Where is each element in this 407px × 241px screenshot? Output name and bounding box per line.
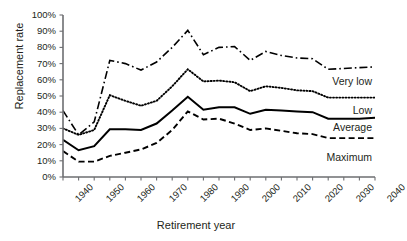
x-tick-label: 2020 <box>323 182 345 204</box>
x-tick-label: 1940 <box>73 182 95 204</box>
x-axis-title: Retirement year <box>0 219 392 231</box>
x-tick-label: 1950 <box>104 182 126 204</box>
x-tick-label: 1980 <box>198 182 220 204</box>
series-label-very-low: Very low <box>332 76 372 87</box>
x-tick-label: 2030 <box>354 182 376 204</box>
x-tick-label: 1960 <box>136 182 158 204</box>
series-label-maximum: Maximum <box>326 152 372 163</box>
x-tick-label: 2000 <box>260 182 282 204</box>
x-tick-label: 1990 <box>229 182 251 204</box>
series-label-average: Average <box>333 122 372 133</box>
series-label-low: Low <box>353 105 372 116</box>
x-tick-label: 2010 <box>292 182 314 204</box>
x-tick-label: 1970 <box>167 182 189 204</box>
x-tick-label: 2040 <box>385 182 407 204</box>
